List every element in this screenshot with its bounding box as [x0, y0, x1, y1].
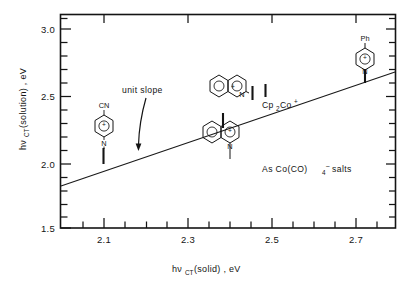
cp2co-label-b: Co — [280, 100, 292, 110]
label-ring-charge-cn: + — [102, 121, 106, 128]
label-ring-nitrogen-isoquinolinium: N — [239, 90, 244, 99]
label-ph-substituent: Ph — [360, 34, 369, 43]
x-tick-label-2-5: 2.5 — [265, 234, 279, 245]
label-ring-charge-ph: + — [363, 54, 367, 61]
cp2co-label-a: Cp — [262, 100, 274, 110]
salts-note-sub: 4 — [322, 169, 326, 176]
salts-annotation: As Co(CO) 4 – salts — [262, 162, 352, 177]
y-axis-title-sub: CT — [23, 128, 30, 137]
y-tick-label-3-0: 3.0 — [41, 24, 55, 35]
cp2co-label-sup: + — [294, 98, 298, 105]
x-tick-label-2-7: 2.7 — [349, 234, 363, 245]
x-axis-title-main: hν — [172, 264, 182, 274]
x-axis-title-sub: CT — [185, 269, 194, 276]
salts-note-a: As Co(CO) — [262, 164, 308, 174]
y-tick-label-1-5: 1.5 — [41, 223, 55, 234]
y-tick-label-2-5: 2.5 — [41, 91, 55, 102]
x-tick-label-2-3: 2.3 — [181, 234, 195, 245]
y-tick-label-2-0: 2.0 — [41, 159, 55, 170]
unit-slope-label: unit slope — [122, 85, 163, 95]
label-ring-nitrogen-ph: N — [362, 67, 367, 76]
label-ring-nitrogen-cn: N — [101, 139, 106, 148]
x-axis-title-rest: (solid) , eV — [194, 264, 241, 274]
x-tick-label-2-1: 2.1 — [97, 234, 111, 245]
chart-figure: 3.0 2.5 2.0 1.5 — [0, 0, 412, 285]
label-ring-nitrogen-quinolinium: N — [227, 142, 232, 151]
label-cn-substituent: CN — [99, 101, 110, 110]
salts-note-sup: – — [326, 162, 330, 169]
salts-note-b: salts — [332, 164, 352, 174]
y-axis-title-rest: (solution) , eV — [18, 68, 28, 128]
charge-transfer-scatter-plot: 3.0 2.5 2.0 1.5 — [0, 0, 412, 285]
label-ring-charge-isoquinolinium: + — [231, 83, 235, 90]
y-axis-title-main: hν — [18, 140, 28, 150]
label-ring-charge-quinolinium: + — [228, 127, 232, 134]
